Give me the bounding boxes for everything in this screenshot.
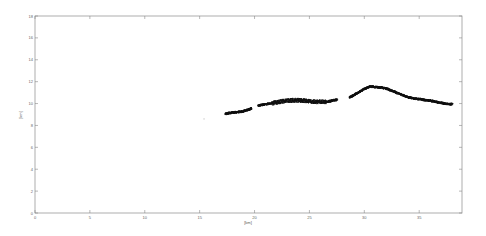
y-tick-label: 6 — [31, 145, 34, 150]
series-isolated-point — [203, 118, 204, 119]
plot-frame — [35, 16, 462, 213]
y-tick-label: 10 — [29, 101, 34, 106]
x-tick-label: 10 — [143, 215, 148, 220]
x-tick-label: 30 — [362, 215, 367, 220]
y-tick-label: 8 — [31, 123, 34, 128]
x-tick-label: 35 — [417, 215, 422, 220]
y-tick-label: 2 — [31, 189, 34, 194]
y-tick-label: 4 — [31, 167, 34, 172]
x-tick-label: 25 — [307, 215, 312, 220]
x-axis-label: [km] — [244, 220, 252, 225]
x-tick-label: 0 — [34, 215, 37, 220]
y-tick-label: 16 — [29, 35, 34, 40]
y-tick-label: 18 — [29, 14, 34, 19]
y-tick-label: 12 — [29, 79, 34, 84]
y-axis-label: [km] — [18, 111, 23, 119]
scatter-chart: 05101520253035 024681012141618 [km] [km] — [0, 0, 486, 236]
x-tick-label: 5 — [89, 215, 92, 220]
y-tick-label: 14 — [29, 57, 34, 62]
x-tick-label: 15 — [197, 215, 202, 220]
x-tick-label: 20 — [252, 215, 257, 220]
